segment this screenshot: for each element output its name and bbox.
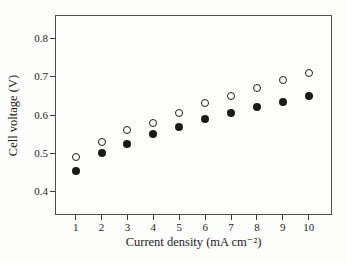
x-tick-mark bbox=[179, 215, 180, 220]
x-tick-mark bbox=[205, 215, 206, 220]
x-tick-label: 5 bbox=[169, 221, 189, 234]
filled-circle-marker bbox=[175, 123, 183, 131]
y-tick-label: 0.5 bbox=[22, 147, 48, 160]
y-tick-label: 0.4 bbox=[22, 185, 48, 198]
filled-circle-marker bbox=[305, 92, 313, 100]
x-tick-label: 1 bbox=[66, 221, 86, 234]
x-tick-mark bbox=[256, 215, 257, 220]
x-tick-mark bbox=[127, 215, 128, 220]
filled-circle-marker bbox=[279, 98, 287, 106]
y-tick-label: 0.8 bbox=[22, 32, 48, 45]
x-tick-mark bbox=[282, 215, 283, 220]
open-circle-marker bbox=[98, 138, 106, 146]
y-tick-label: 0.6 bbox=[22, 109, 48, 122]
y-tick-mark bbox=[50, 191, 55, 192]
x-tick-label: 7 bbox=[221, 221, 241, 234]
x-tick-mark bbox=[153, 215, 154, 220]
y-tick-label: 0.7 bbox=[22, 70, 48, 83]
x-tick-label: 8 bbox=[247, 221, 267, 234]
x-tick-mark bbox=[101, 215, 102, 220]
filled-circle-marker bbox=[72, 167, 80, 175]
x-tick-mark bbox=[231, 215, 232, 220]
filled-circle-marker bbox=[201, 115, 209, 123]
x-tick-label: 9 bbox=[273, 221, 293, 234]
y-axis-label: Cell voltage (V) bbox=[6, 9, 21, 223]
y-tick-mark bbox=[50, 115, 55, 116]
x-tick-label: 3 bbox=[117, 221, 137, 234]
x-tick-label: 6 bbox=[195, 221, 215, 234]
open-circle-marker bbox=[72, 153, 80, 161]
open-circle-marker bbox=[253, 84, 261, 92]
x-tick-label: 10 bbox=[299, 221, 319, 234]
plot-area bbox=[55, 15, 332, 215]
x-tick-mark bbox=[75, 215, 76, 220]
y-tick-mark bbox=[50, 76, 55, 77]
x-axis-label: Current density (mA cm⁻²) bbox=[55, 235, 332, 250]
y-tick-mark bbox=[50, 38, 55, 39]
x-tick-label: 4 bbox=[143, 221, 163, 234]
y-tick-mark bbox=[50, 153, 55, 154]
scatter-chart-figure: 0.40.50.60.70.812345678910 Current densi… bbox=[0, 0, 347, 263]
open-circle-marker bbox=[227, 92, 235, 100]
open-circle-marker bbox=[305, 69, 313, 77]
x-tick-label: 2 bbox=[92, 221, 112, 234]
x-tick-mark bbox=[308, 215, 309, 220]
